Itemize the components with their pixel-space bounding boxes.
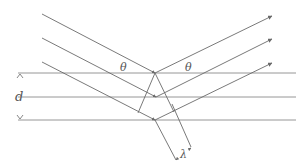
wavefront-incident	[138, 73, 155, 113]
incident-ray-2	[42, 38, 156, 97]
reflected-ray-2	[156, 39, 272, 97]
theta-reflected-label: θ	[185, 61, 192, 74]
wavelength-extension-1	[155, 120, 176, 160]
wavelength-indicator: λ	[176, 148, 191, 161]
spacing-label: d	[15, 89, 23, 104]
wavelength-label: λ	[179, 148, 187, 161]
wavelength-extension-2	[172, 104, 191, 147]
reflected-ray-1	[155, 16, 272, 73]
theta-incident-label: θ	[120, 61, 127, 74]
spacing-indicator: d	[15, 74, 23, 119]
bragg-diffraction-diagram: λ d θ θ	[0, 0, 306, 165]
spacing-arrow-bottom	[17, 115, 23, 119]
wavefront-reflected	[155, 73, 174, 112]
wavelength-arrow-right	[188, 148, 191, 150]
incident-ray-1	[42, 14, 155, 73]
wavelength-arrow-left	[176, 158, 178, 160]
incident-ray-3	[42, 62, 155, 120]
construction-lines	[138, 73, 191, 160]
reflected-ray-3	[155, 63, 272, 120]
spacing-arrow-top	[17, 74, 23, 78]
incident-rays	[42, 14, 156, 120]
